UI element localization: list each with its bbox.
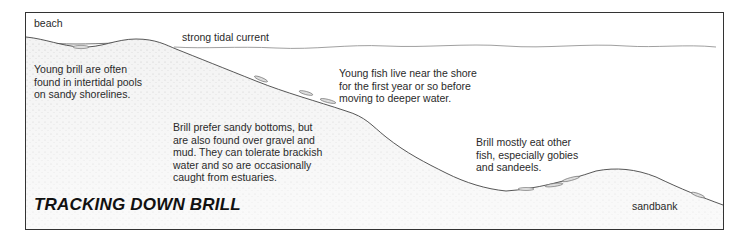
diagram-title: TRACKING DOWN BRILL [34,195,241,215]
note-diet: Brill mostly eat other fish, especially … [476,136,578,174]
note-habitat: Brill prefer sandy bottoms, but are also… [173,121,322,184]
tidal-current-label: strong tidal current [182,31,269,44]
diagram-frame: beach strong tidal current sandbank Youn… [25,12,724,230]
note-young-brill: Young brill are often found in intertida… [34,63,142,101]
water-surface-line [174,45,716,48]
note-young-fish: Young fish live near the shore for the f… [339,67,477,105]
beach-label: beach [34,17,63,30]
sandbank-label: sandbank [632,200,678,213]
